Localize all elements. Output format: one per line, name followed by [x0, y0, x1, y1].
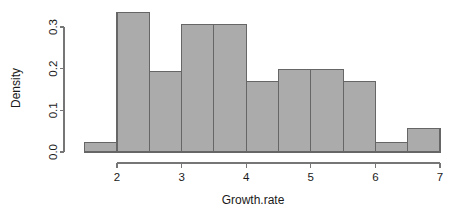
histogram-bar: [246, 81, 278, 152]
x-axis-tick-label: 3: [178, 171, 184, 183]
histogram-bar: [214, 25, 246, 152]
y-axis-tick-label: 0.3: [47, 19, 59, 35]
y-axis-tick-label: 0.2: [47, 61, 59, 77]
x-axis-tick-label: 7: [437, 171, 443, 183]
histogram-bar: [375, 142, 407, 152]
histogram-canvas: 0.00.10.20.3 234567 Density Growth.rate: [0, 0, 460, 222]
y-axis-title: Density: [9, 68, 23, 108]
x-axis-tick-label: 2: [114, 171, 120, 183]
y-axis-tick-label: 0.0: [47, 144, 59, 160]
histogram-bar: [408, 128, 440, 152]
x-axis-title: Growth.rate: [222, 193, 285, 207]
histogram-plot: 0.00.10.20.3 234567 Density Growth.rate: [0, 0, 460, 222]
histogram-bar: [311, 70, 343, 153]
y-axis-tick-label: 0.1: [47, 102, 59, 118]
histogram-bar: [343, 81, 375, 152]
histogram-bar: [117, 12, 149, 152]
histogram-bar: [279, 70, 311, 153]
histogram-bar: [85, 142, 117, 152]
x-axis-tick-label: 6: [372, 171, 378, 183]
x-axis-tick-label: 5: [308, 171, 314, 183]
histogram-bar: [182, 25, 214, 152]
histogram-bar: [149, 72, 181, 152]
x-axis-tick-label: 4: [243, 171, 250, 183]
